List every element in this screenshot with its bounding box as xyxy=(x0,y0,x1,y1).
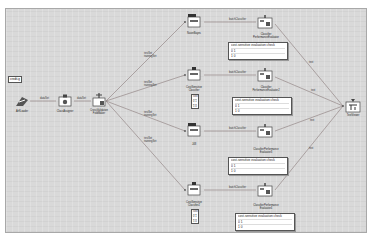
cost-sensitive-2-node[interactable] xyxy=(186,182,202,196)
edge-label-batch-3: batchClassifier xyxy=(229,127,246,130)
class-assigner-node[interactable] xyxy=(57,94,73,108)
edge-label-text-3: text xyxy=(310,119,314,122)
perf-evaluator-2-node[interactable] xyxy=(257,68,273,82)
cost-matrix-panel-1: cost-sensitive evaluation check 0 1 1 0 xyxy=(228,42,288,60)
cost-sensitive-node[interactable] xyxy=(186,67,202,81)
perf-evaluator-3-label: ClassifierPerformance Evaluator3 xyxy=(244,148,288,154)
edge-label-text-1: text xyxy=(309,61,313,64)
classifier-icon xyxy=(186,14,202,28)
naive-bayes-node[interactable] xyxy=(186,14,202,28)
edge-label-text-2: text xyxy=(311,89,315,92)
cost-matrix-panel-3: cost-sensitive evaluation check 0 1 1 0 xyxy=(228,157,288,175)
perf-evaluator-1-node[interactable] xyxy=(257,15,273,29)
dataset-tag[interactable]: credit-g xyxy=(8,76,22,83)
edge-label-testtrain-4: testSet trainingSet xyxy=(144,137,156,143)
evaluator-icon xyxy=(257,124,273,138)
fold-maker-icon xyxy=(91,93,107,107)
perf-evaluator-2-label: Classifier PerformanceEvaluator2 xyxy=(244,86,288,92)
evaluator-icon xyxy=(257,15,273,29)
text-viewer-label: TextViewer xyxy=(331,114,371,117)
text-viewer-node[interactable] xyxy=(345,99,361,113)
arff-loader-node[interactable] xyxy=(14,94,30,108)
j48-node[interactable] xyxy=(186,123,202,137)
edge-label-testtrain-1: testSet trainingSet xyxy=(144,52,156,58)
cost-matrix-panel-2: cost-sensitive evaluation check 0 1 1 0 xyxy=(232,97,292,115)
edge-label-dataset-1: dataSet xyxy=(40,97,49,100)
edge-label-testtrain-3: testSet trainingSet xyxy=(144,111,156,117)
edge-label-text-4: text xyxy=(309,147,313,150)
edge-label-batch-2: batchClassifier xyxy=(229,71,246,74)
class-assigner-icon xyxy=(57,94,73,108)
cost-matrix-small-1: cost 0 1 5 0 xyxy=(191,94,199,109)
cost-matrix-small-2: cost 0 1 5 0 xyxy=(191,209,199,224)
arff-loader-label: ArffLoader xyxy=(0,110,44,113)
edge-label-dataset-2: dataSet xyxy=(77,97,86,100)
cost-matrix-panel-4: cost-sensitive evaluation check 0 1 1 0 xyxy=(235,213,295,231)
classifier-icon xyxy=(186,67,202,81)
text-viewer-icon xyxy=(345,99,361,113)
perf-evaluator-4-label: ClassifierPerformance Evaluator4 xyxy=(244,204,288,210)
edge-label-testtrain-2: testSet trainingSet xyxy=(144,81,156,87)
cross-validation-node[interactable] xyxy=(91,93,107,107)
perf-evaluator-3-node[interactable] xyxy=(257,124,273,138)
evaluator-icon xyxy=(257,68,273,82)
edge-label-batch-1: batchClassifier xyxy=(229,18,246,21)
j48-label: J48 xyxy=(172,143,216,146)
perf-evaluator-4-node[interactable] xyxy=(257,183,273,197)
evaluator-icon xyxy=(257,183,273,197)
cost-sensitive-2-label: CostSensitive Classifier2 xyxy=(172,201,216,207)
edge-label-batch-4: batchClassifier xyxy=(229,186,246,189)
loader-icon xyxy=(14,94,30,108)
perf-evaluator-1-label: Classifier PerformanceEvaluator xyxy=(244,33,288,39)
cost-sensitive-label: CostSensitive Classifier xyxy=(172,86,216,92)
classifier-icon xyxy=(186,123,202,137)
classifier-icon xyxy=(186,182,202,196)
naive-bayes-label: NaiveBayes xyxy=(172,32,216,35)
cross-validation-label: CrossValidation FoldMaker xyxy=(77,109,121,115)
